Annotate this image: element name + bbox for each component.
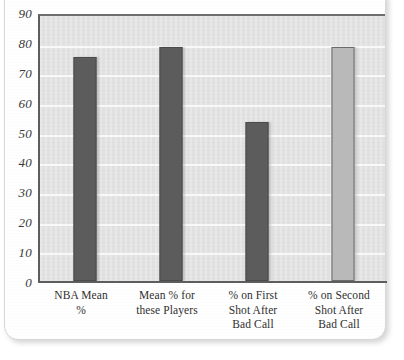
- y-tick-80: 80: [18, 36, 32, 52]
- y-tick-10: 10: [18, 245, 32, 261]
- x-label-line: % on First: [205, 288, 301, 303]
- x-label-line: % on Second: [291, 288, 387, 303]
- x-label-line: Shot After: [205, 303, 301, 318]
- x-label-line: %: [33, 303, 129, 318]
- y-tick-70: 70: [18, 66, 32, 82]
- x-label-nba-mean: NBA Mean %: [33, 288, 129, 317]
- y-tick-90: 90: [18, 6, 32, 22]
- chart-plot-area: [38, 14, 385, 283]
- x-axis-line: [38, 281, 387, 283]
- bar-series: [42, 16, 385, 281]
- bar-nba-mean[interactable]: [74, 57, 97, 281]
- bar-slot-1: [42, 16, 128, 281]
- y-tick-20: 20: [18, 215, 32, 231]
- x-label-line: Bad Call: [205, 317, 301, 332]
- y-tick-40: 40: [18, 155, 32, 171]
- y-tick-60: 60: [18, 96, 32, 112]
- bar-slot-3: [214, 16, 300, 281]
- chart-page: 90 80 70 60 50 40 30 20 10 0: [0, 0, 404, 360]
- x-label-line: Shot After: [291, 303, 387, 318]
- plot-background: [38, 14, 385, 283]
- bar-first-shot-after-bad-call[interactable]: [246, 122, 269, 281]
- bar-mean-these-players[interactable]: [160, 47, 183, 281]
- bar-slot-4: [300, 16, 386, 281]
- x-axis-labels: NBA Mean % Mean % for these Players % on…: [40, 288, 387, 352]
- x-label-line: Mean % for: [119, 288, 215, 303]
- bar-second-shot-after-bad-call[interactable]: [332, 47, 355, 281]
- y-tick-30: 30: [18, 185, 32, 201]
- x-label-second-shot: % on Second Shot After Bad Call: [291, 288, 387, 332]
- x-label-line: NBA Mean: [33, 288, 129, 303]
- y-axis-labels: 90 80 70 60 50 40 30 20 10 0: [0, 14, 34, 283]
- y-tick-50: 50: [18, 126, 32, 142]
- x-label-mean-these-players: Mean % for these Players: [119, 288, 215, 317]
- x-label-line: these Players: [119, 303, 215, 318]
- bar-slot-2: [128, 16, 214, 281]
- y-tick-0: 0: [25, 275, 32, 291]
- x-label-first-shot: % on First Shot After Bad Call: [205, 288, 301, 332]
- x-label-line: Bad Call: [291, 317, 387, 332]
